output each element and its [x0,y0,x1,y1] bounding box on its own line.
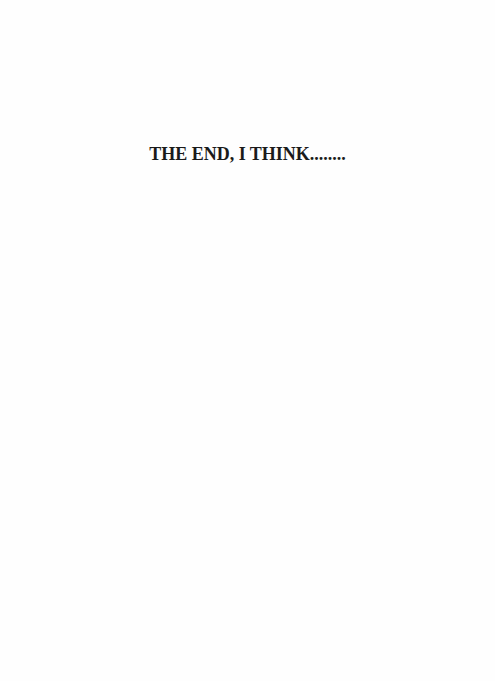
document-page: THE END, I THINK........ [0,0,495,681]
closing-heading: THE END, I THINK........ [0,143,495,165]
